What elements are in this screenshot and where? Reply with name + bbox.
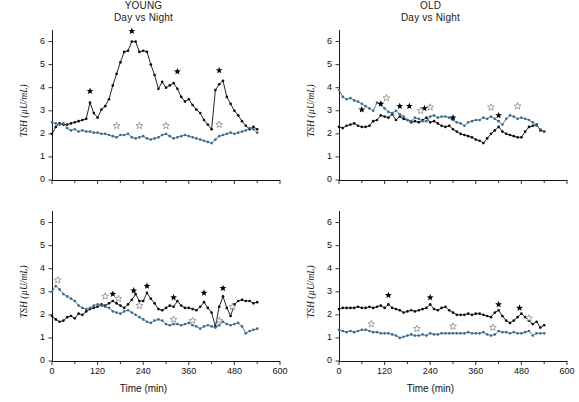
series-marker (341, 127, 344, 130)
series-marker (165, 86, 168, 89)
series-marker (225, 133, 228, 136)
series-marker (256, 327, 259, 330)
series-marker (218, 83, 221, 86)
series-marker (406, 334, 409, 337)
series-marker (429, 303, 432, 306)
series-marker (184, 323, 187, 326)
series-marker (85, 130, 88, 133)
series-marker (357, 124, 360, 127)
series-marker (233, 133, 236, 136)
series-marker (421, 333, 424, 336)
series-marker (127, 49, 130, 52)
significance-star-filled (144, 282, 151, 289)
series-marker (509, 134, 512, 137)
series-marker (168, 304, 171, 307)
significance-star-open (136, 302, 143, 309)
series-marker (225, 96, 228, 99)
significance-star-filled (385, 292, 392, 299)
y-tick-label: 0 (29, 355, 45, 365)
series-marker (241, 299, 244, 302)
series-marker (414, 310, 417, 313)
series-marker (58, 288, 61, 291)
series-marker (51, 121, 54, 124)
series-marker (191, 308, 194, 311)
series-marker (368, 124, 371, 127)
series-marker (379, 332, 382, 335)
series-marker (184, 134, 187, 137)
series-marker (184, 307, 187, 310)
series-marker (531, 334, 534, 337)
series-marker (391, 333, 394, 336)
series-marker (516, 316, 519, 319)
series-marker (70, 129, 73, 132)
series-marker (51, 315, 54, 318)
y-tick-label: 2 (29, 309, 45, 319)
series-marker (66, 295, 69, 298)
series-marker (478, 312, 481, 315)
series-marker (73, 300, 76, 303)
series-marker (433, 333, 436, 336)
series-marker (62, 122, 65, 125)
series-marker (345, 307, 348, 310)
series-marker (505, 133, 508, 136)
significance-star-open (514, 103, 521, 110)
series-marker (54, 285, 57, 288)
series-marker (77, 304, 80, 307)
series-marker (180, 304, 183, 307)
significance-star-open (488, 104, 495, 111)
series-marker (149, 63, 152, 66)
series-marker (172, 323, 175, 326)
series-marker (398, 309, 401, 312)
series-marker (345, 124, 348, 127)
series-marker (387, 332, 390, 335)
series-marker (493, 118, 496, 121)
series-marker (66, 123, 69, 126)
series-marker (425, 120, 428, 123)
series-marker (229, 131, 232, 134)
series-marker (482, 116, 485, 119)
series-marker (474, 312, 477, 315)
y-tick-label: 1 (316, 151, 332, 161)
series-marker (353, 331, 356, 334)
series-marker (206, 324, 209, 327)
series-marker (58, 123, 61, 126)
series-marker (54, 122, 57, 125)
significance-star-open (526, 315, 533, 322)
series-marker (349, 330, 352, 333)
series-marker (448, 332, 451, 335)
x-tick-label: 480 (506, 366, 536, 376)
series-marker (104, 133, 107, 136)
series-marker (89, 130, 92, 133)
series-marker (104, 105, 107, 108)
y-tick-label: 4 (29, 82, 45, 92)
plot-old-top: 0123456TSH (µU/mL) (287, 0, 574, 201)
series-marker (165, 323, 168, 326)
series-marker (134, 137, 137, 140)
y-tick-label: 2 (316, 309, 332, 319)
series-marker (444, 126, 447, 129)
panel-young-bottom: 01234560120240360480600Time (min)TSH (µU… (0, 201, 287, 402)
series-marker (497, 309, 500, 312)
series-marker (360, 103, 363, 106)
series-marker (535, 320, 538, 323)
series-marker (256, 131, 259, 134)
series-marker (108, 307, 111, 310)
significance-star-filled (109, 290, 116, 297)
series-marker (421, 308, 424, 311)
plot-canvas (287, 0, 574, 201)
series-marker (130, 311, 133, 314)
series-marker (391, 307, 394, 310)
series-marker (528, 119, 531, 122)
series-marker (459, 122, 462, 125)
series-marker (524, 130, 527, 133)
x-tick-label: 240 (415, 366, 445, 376)
series-marker (111, 300, 114, 303)
series-marker (161, 134, 164, 137)
series-marker (210, 325, 213, 328)
series-marker (256, 301, 259, 304)
series-marker (452, 311, 455, 314)
series-marker (490, 115, 493, 118)
series-marker (417, 121, 420, 124)
series-marker (410, 333, 413, 336)
y-tick-label: 3 (29, 286, 45, 296)
